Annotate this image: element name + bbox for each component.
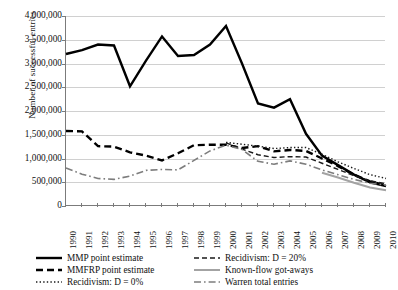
x-tickmark	[129, 203, 130, 207]
y-tick-label: 0	[12, 201, 62, 210]
plot-area	[65, 16, 385, 206]
x-tickmark	[177, 203, 178, 207]
x-tick-label: 2002	[261, 231, 270, 249]
legend-swatch-icon	[36, 253, 62, 263]
x-tick-label: 2007	[341, 231, 350, 249]
y-tick-label: 4,000,000	[12, 11, 62, 20]
x-tickmark	[113, 203, 114, 207]
x-tick-label: 1993	[117, 231, 126, 249]
x-tickmark	[193, 203, 194, 207]
x-tick-label: 1996	[165, 231, 174, 249]
y-tick-label: 1,000,000	[12, 154, 62, 163]
legend-swatch-icon	[36, 265, 62, 275]
x-tickmark	[337, 203, 338, 207]
legend-label: Recidivism: D = 0%	[67, 277, 143, 287]
x-tickmark	[161, 203, 162, 207]
x-tickmark	[321, 203, 322, 207]
legend-label: Recidivism: D = 20%	[225, 253, 306, 263]
legend-swatch-icon	[194, 265, 220, 275]
legend-swatch-icon	[36, 277, 62, 287]
y-tick-label: 2,000,000	[12, 106, 62, 115]
x-tickmark	[209, 203, 210, 207]
x-tickmark	[385, 203, 386, 207]
legend-item: Recidivism: D = 0%	[36, 276, 196, 287]
x-tickmark	[65, 203, 66, 207]
legend-item: Recidivism: D = 20%	[194, 252, 374, 263]
x-tick-label: 2010	[389, 231, 398, 249]
x-tick-label: 1990	[69, 231, 78, 249]
chart-legend: MMP point estimateRecidivism: D = 20%MMF…	[36, 252, 366, 288]
legend-swatch-icon	[194, 253, 220, 263]
legend-swatch-icon	[194, 277, 220, 287]
x-tick-label: 2005	[309, 231, 318, 249]
x-tick-label: 1997	[181, 231, 190, 249]
x-tickmark	[97, 203, 98, 207]
y-axis-tick-labels: 0500,0001,000,0001,500,0002,000,0002,500…	[12, 0, 62, 290]
legend-label: MMP point estimate	[67, 253, 143, 263]
legend-label: MMFRP point estimate	[67, 265, 154, 275]
x-tick-label: 1994	[133, 231, 142, 249]
x-tick-label: 1991	[85, 231, 94, 249]
x-tickmark	[273, 203, 274, 207]
x-tickmark	[369, 203, 370, 207]
y-tick-label: 500,000	[12, 177, 62, 186]
x-tickmark	[145, 203, 146, 207]
x-tick-label: 1992	[101, 231, 110, 249]
legend-label: Known-flow got-aways	[225, 265, 313, 275]
x-tickmark	[81, 203, 82, 207]
x-tickmark	[225, 203, 226, 207]
x-tickmark	[353, 203, 354, 207]
chart-svg	[66, 16, 386, 206]
legend-label: Warren total entries	[225, 277, 298, 287]
legend-item: Warren total entries	[194, 276, 374, 287]
y-tick-label: 1,500,000	[12, 130, 62, 139]
x-tick-label: 2006	[325, 231, 334, 249]
x-tick-label: 2000	[229, 231, 238, 249]
x-tick-label: 2009	[373, 231, 382, 249]
x-tickmark	[241, 203, 242, 207]
x-tick-label: 2008	[357, 231, 366, 249]
y-tick-label: 3,500,000	[12, 35, 62, 44]
x-tick-label: 2001	[245, 231, 254, 249]
x-tick-label: 2004	[293, 231, 302, 249]
x-tick-label: 1999	[213, 231, 222, 249]
legend-item: MMP point estimate	[36, 252, 196, 263]
x-tickmark	[257, 203, 258, 207]
x-tickmark	[289, 203, 290, 207]
y-tick-label: 3,000,000	[12, 59, 62, 68]
legend-item: Known-flow got-aways	[194, 264, 374, 275]
y-tick-label: 2,500,000	[12, 82, 62, 91]
series-layer	[66, 16, 385, 205]
x-axis-tick-labels: 1990199119921993199419951996199719981999…	[65, 207, 385, 253]
x-tick-label: 2003	[277, 231, 286, 249]
series-line-recidivism-d-0	[226, 142, 386, 178]
x-tick-label: 1998	[197, 231, 206, 249]
x-tick-label: 1995	[149, 231, 158, 249]
x-tickmark	[305, 203, 306, 207]
legend-item: MMFRP point estimate	[36, 264, 196, 275]
